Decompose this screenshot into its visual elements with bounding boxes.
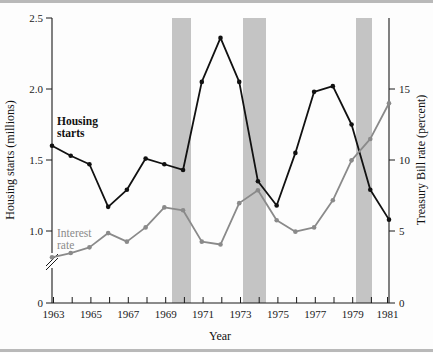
interest-rate-label-line2: rate — [57, 239, 74, 251]
data-point — [331, 84, 336, 89]
x-tick-label-1975: 1975 — [267, 308, 290, 320]
x-tick-label-1967: 1967 — [117, 308, 140, 320]
y-right-axis: 15 10 5 0 Treasury Bill rate (percent) — [389, 18, 428, 309]
data-point — [87, 162, 92, 167]
data-point — [181, 208, 186, 213]
data-point — [106, 205, 111, 210]
data-point — [87, 245, 92, 250]
interest-rate-label-line1: Interest — [57, 227, 92, 239]
x-axis: 1963 1965 1967 1969 1971 1973 1975 1977 … — [43, 297, 399, 343]
y-right-tick-2: 5 — [399, 225, 405, 237]
data-point — [125, 239, 130, 244]
chart-figure: 2.5 2.0 1.5 1.0 0 Housing starts (millio… — [0, 0, 433, 353]
x-tick-label-1965: 1965 — [80, 308, 103, 320]
data-point — [199, 239, 204, 244]
data-point — [162, 205, 167, 210]
bottom-rule — [0, 349, 433, 352]
data-point — [162, 162, 167, 167]
data-point — [256, 179, 261, 184]
data-point — [143, 225, 148, 230]
data-point — [218, 242, 223, 247]
x-tick-label-1981: 1981 — [377, 308, 399, 320]
data-point — [387, 101, 392, 106]
data-point — [50, 144, 55, 149]
y-left-tick-1: 2.0 — [29, 83, 43, 95]
data-point — [68, 251, 73, 256]
data-point — [331, 198, 336, 203]
data-point — [312, 90, 317, 95]
data-point — [387, 217, 392, 222]
y-left-tick-0: 2.5 — [29, 12, 43, 24]
data-point — [293, 229, 298, 234]
data-point — [50, 255, 55, 260]
data-point — [368, 188, 373, 193]
data-point — [274, 218, 279, 223]
y-right-tick-1: 10 — [399, 154, 411, 166]
data-point — [181, 168, 186, 173]
plot-area-background — [52, 18, 389, 303]
y-left-axis-title: Housing starts (millions) — [3, 100, 17, 219]
data-point — [218, 36, 223, 41]
data-point — [199, 80, 204, 85]
data-point — [237, 201, 242, 206]
x-axis-title: Year — [209, 329, 231, 343]
data-point — [106, 231, 111, 236]
recession-band-1 — [172, 18, 191, 303]
x-tick-label-1979: 1979 — [342, 308, 365, 320]
x-tick-label-1973: 1973 — [230, 308, 253, 320]
y-right-tick-0: 15 — [399, 83, 411, 95]
housing-starts-interest-rate-chart: 2.5 2.0 1.5 1.0 0 Housing starts (millio… — [0, 0, 433, 353]
y-left-tick-3: 1.0 — [29, 225, 43, 237]
y-right-axis-title: Treasury Bill rate (percent) — [414, 95, 428, 226]
data-point — [349, 158, 354, 163]
recession-band-3 — [356, 18, 372, 303]
data-point — [293, 151, 298, 156]
data-point — [274, 203, 279, 208]
housing-starts-label-line2: starts — [57, 127, 85, 139]
data-point — [256, 188, 261, 193]
y-left-axis: 2.5 2.0 1.5 1.0 0 Housing starts (millio… — [3, 12, 58, 309]
data-point — [368, 137, 373, 142]
data-point — [125, 188, 130, 193]
x-tick-label-1969: 1969 — [155, 308, 178, 320]
data-point — [237, 80, 242, 85]
data-point — [349, 122, 354, 127]
x-tick-label-1971: 1971 — [192, 308, 214, 320]
x-tick-label-1963: 1963 — [43, 308, 66, 320]
data-point — [143, 156, 148, 161]
y-left-tick-2: 1.5 — [29, 154, 43, 166]
data-point — [68, 153, 73, 158]
x-tick-label-1977: 1977 — [304, 308, 327, 320]
data-point — [312, 225, 317, 230]
top-rule — [0, 0, 433, 3]
y-right-tick-3: 0 — [399, 297, 405, 309]
